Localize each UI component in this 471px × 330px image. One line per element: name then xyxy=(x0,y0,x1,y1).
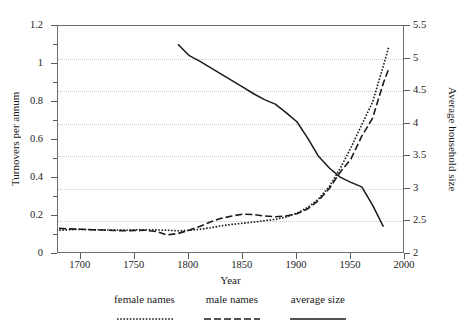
legend-label: female names xyxy=(114,293,175,305)
y-tick-label-right: 3 xyxy=(413,183,418,193)
x-tick-label: 1700 xyxy=(55,259,105,270)
legend-swatch-dotted xyxy=(116,308,174,314)
series-layer xyxy=(58,26,405,254)
legend-item[interactable]: male names xyxy=(203,293,261,314)
chart-figure: Turnovers per annum Average household si… xyxy=(0,0,471,330)
y-tick-left xyxy=(51,253,57,254)
x-tick-label: 1850 xyxy=(217,259,267,270)
y-tick-label-right: 3.5 xyxy=(413,150,426,160)
legend-label: average size xyxy=(291,293,345,305)
y-tick-label-left: 0.2 xyxy=(30,210,43,220)
legend-swatch-dashed xyxy=(203,308,261,314)
x-tick-label: 2000 xyxy=(379,259,429,270)
y-tick-label-right: 2.5 xyxy=(413,215,426,225)
y-tick-label-right: 2 xyxy=(413,248,418,258)
y-tick-label-right: 5 xyxy=(413,53,418,63)
y-axis-title-left: Turnovers per annum xyxy=(8,25,22,253)
series-line-male-names xyxy=(59,69,389,235)
y-tick-label-right: 4.5 xyxy=(413,85,426,95)
y-tick-label-right: 5.5 xyxy=(413,20,426,30)
legend-swatch-solid xyxy=(289,308,347,314)
y-tick-label-left: 0.6 xyxy=(30,134,43,144)
x-tick-label: 1900 xyxy=(271,259,321,270)
y-tick-label-left: 0.8 xyxy=(30,96,43,106)
y-tick-label-left: 1.2 xyxy=(30,20,43,30)
series-line-average-size xyxy=(178,44,383,226)
x-tick-label: 1750 xyxy=(109,259,159,270)
y-tick-label-left: 1 xyxy=(38,58,43,68)
chart-legend: female namesmale namesaverage size xyxy=(57,293,404,314)
x-axis-title: Year xyxy=(57,274,404,286)
y-tick-label-right: 4 xyxy=(413,118,418,128)
legend-label: male names xyxy=(206,293,258,305)
series-line-female-names xyxy=(59,47,389,231)
legend-item[interactable]: female names xyxy=(114,293,175,314)
plot-area xyxy=(57,25,404,253)
y-tick-label-left: 0.4 xyxy=(30,172,43,182)
x-tick-label: 1950 xyxy=(325,259,375,270)
legend-item[interactable]: average size xyxy=(289,293,347,314)
y-axis-title-right: Average household size xyxy=(445,25,461,253)
x-tick-label: 1800 xyxy=(163,259,213,270)
y-tick-label-left: 0 xyxy=(38,248,43,258)
